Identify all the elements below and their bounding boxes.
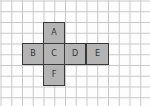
face-label: D	[72, 50, 78, 58]
face-label: E	[95, 50, 100, 58]
face-c: C	[43, 43, 65, 65]
grid-background: A B C D E F	[0, 0, 150, 106]
face-b: B	[22, 43, 44, 65]
face-label: B	[30, 50, 36, 58]
face-label: C	[51, 50, 57, 58]
face-a: A	[43, 22, 65, 44]
face-f: F	[43, 64, 65, 86]
face-d: D	[64, 43, 86, 65]
face-label: F	[52, 71, 57, 79]
face-e: E	[86, 43, 109, 65]
face-label: A	[51, 29, 56, 37]
